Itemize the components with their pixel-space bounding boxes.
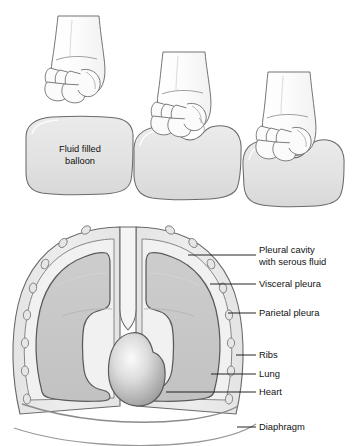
label-visceral-pleura: Visceral pleura: [259, 278, 322, 289]
label-parietal-pleura: Parietal pleura: [259, 307, 320, 318]
rib: [227, 338, 234, 348]
rib: [23, 310, 31, 320]
rib: [21, 366, 29, 376]
label-pleural-cavity-line2: with serous fluid: [258, 256, 326, 267]
balloon-label-line1: Fluid filled: [59, 144, 101, 154]
label-diaphragm: Diaphragm: [259, 421, 305, 432]
balloon-label-line2: balloon: [65, 156, 95, 166]
figure-canvas: Fluid filled balloon: [0, 0, 356, 446]
trachea: [120, 227, 136, 330]
rib: [23, 394, 31, 405]
figure-root: Fluid filled balloon: [0, 0, 356, 446]
label-lung: Lung: [259, 368, 280, 379]
label-heart: Heart: [259, 386, 282, 397]
label-ribs: Ribs: [259, 349, 278, 360]
label-pleural-cavity-line1: Pleural cavity: [259, 244, 315, 255]
rib: [225, 394, 233, 405]
rib: [227, 366, 235, 376]
rib: [225, 310, 233, 320]
rib: [21, 338, 28, 348]
